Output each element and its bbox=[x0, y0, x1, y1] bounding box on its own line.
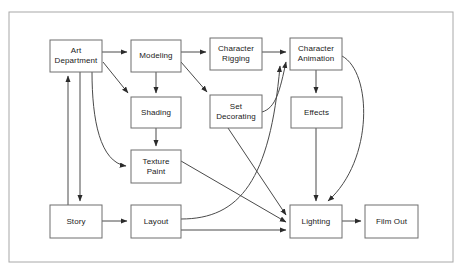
node-modeling[interactable] bbox=[131, 40, 181, 72]
node-story[interactable] bbox=[50, 205, 102, 238]
node-shading[interactable] bbox=[131, 97, 181, 128]
node-art-department[interactable] bbox=[50, 40, 102, 72]
node-layout[interactable] bbox=[131, 205, 181, 238]
node-character-animation[interactable] bbox=[290, 38, 342, 70]
diagram-canvas: Art DepartmentModelingCharacter RiggingC… bbox=[0, 0, 462, 274]
flowchart-svg bbox=[0, 0, 462, 274]
node-texture-paint[interactable] bbox=[131, 150, 181, 183]
node-effects[interactable] bbox=[291, 97, 342, 128]
node-character-rigging[interactable] bbox=[210, 38, 262, 70]
node-film-out[interactable] bbox=[365, 205, 418, 238]
node-lighting[interactable] bbox=[290, 205, 342, 238]
node-set-decorating[interactable] bbox=[210, 95, 262, 128]
